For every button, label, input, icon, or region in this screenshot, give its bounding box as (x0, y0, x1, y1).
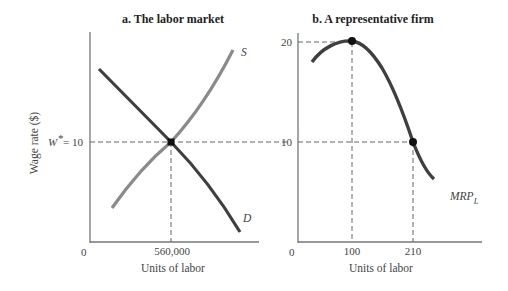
panel-a-x-label: Units of labor (141, 262, 205, 274)
y-tick-10: 10 (281, 136, 293, 148)
wstar-equals: = 10 (63, 136, 83, 148)
wstar-w: W (48, 136, 58, 148)
mrp-curve (312, 41, 434, 179)
x-tick-210: 210 (405, 245, 422, 257)
supply-label: S (241, 46, 247, 58)
y-tick-20: 20 (281, 36, 293, 48)
panel-b-representative-firm: b. A representative firm 20 10 0 100 210… (281, 12, 482, 274)
x-tick-100: 100 (344, 245, 361, 257)
point-210-10 (409, 138, 417, 146)
mrp-label: MRPL (449, 190, 479, 206)
equilibrium-point (168, 139, 175, 146)
panel-b-x-label: Units of labor (349, 262, 413, 274)
demand-label: D (242, 212, 252, 224)
mrp-label-main: MRP (449, 190, 474, 202)
panel-a-x-tick: 560,000 (154, 245, 190, 257)
labor-market-figure: a. The labor market Wage rate ($) S D W … (0, 0, 508, 291)
panel-a-title: a. The labor market (122, 12, 224, 26)
y-axis-label: Wage rate ($) (28, 112, 41, 174)
wstar-tick-label: W * = 10 (48, 132, 83, 148)
panel-b-title: b. A representative firm (312, 12, 434, 26)
mrp-label-subscript: L (473, 196, 479, 206)
supply-curve (112, 50, 233, 208)
demand-curve (99, 69, 240, 232)
panel-b-origin: 0 (289, 246, 295, 258)
panel-a-labor-market: a. The labor market Wage rate ($) S D W … (28, 12, 287, 274)
point-100-20 (348, 37, 356, 45)
panel-a-origin: 0 (81, 246, 87, 258)
